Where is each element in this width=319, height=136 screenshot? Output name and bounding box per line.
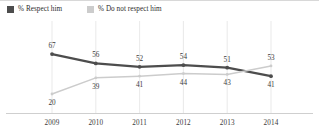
- x-tick-2012: 2012: [176, 119, 191, 127]
- plot-area: 675652545141203941444353: [0, 21, 319, 114]
- line-chart: % Respect him % Do not respect him 67565…: [0, 0, 319, 136]
- data-label-1-2014: 53: [267, 54, 274, 62]
- legend-swatch-do-not-respect: [87, 6, 94, 13]
- x-axis-labels: 200920102011201220132014: [0, 117, 319, 135]
- data-label-1-2011: 41: [136, 81, 143, 89]
- data-point-0-2009[interactable]: [50, 52, 54, 56]
- chart-legend: % Respect him % Do not respect him: [0, 1, 319, 21]
- data-point-0-2014[interactable]: [269, 74, 273, 78]
- data-label-0-2014: 41: [267, 81, 274, 89]
- x-tick-2011: 2011: [132, 119, 147, 127]
- data-point-0-2012[interactable]: [182, 63, 186, 67]
- data-point-1-2013[interactable]: [226, 73, 229, 76]
- data-label-1-2010: 39: [92, 83, 99, 91]
- legend-swatch-respect: [7, 6, 14, 13]
- data-label-0-2011: 52: [136, 55, 143, 63]
- data-point-1-2011[interactable]: [138, 75, 141, 78]
- data-label-1-2012: 44: [180, 79, 187, 87]
- legend-item-do-not-respect[interactable]: % Do not respect him: [87, 5, 162, 14]
- data-point-0-2011[interactable]: [138, 65, 142, 69]
- series-layer: [50, 52, 273, 95]
- data-point-0-2013[interactable]: [225, 66, 229, 70]
- legend-item-respect[interactable]: % Respect him: [7, 5, 62, 14]
- data-label-1-2013: 43: [224, 79, 231, 87]
- x-tick-2013: 2013: [220, 119, 235, 127]
- data-label-0-2010: 56: [92, 51, 99, 59]
- data-label-0-2009: 67: [48, 42, 55, 50]
- data-point-0-2010[interactable]: [94, 62, 98, 66]
- data-label-0-2012: 54: [180, 53, 187, 61]
- gridlines: [52, 21, 271, 114]
- data-point-1-2012[interactable]: [182, 72, 185, 75]
- data-label-1-2009: 20: [48, 99, 55, 107]
- x-tick-2010: 2010: [88, 119, 103, 127]
- data-point-1-2009[interactable]: [51, 93, 54, 96]
- x-tick-2014: 2014: [264, 119, 279, 127]
- x-tick-2009: 2009: [45, 119, 60, 127]
- data-point-1-2014[interactable]: [270, 65, 273, 68]
- legend-label-respect: % Respect him: [18, 5, 62, 14]
- data-point-1-2010[interactable]: [94, 76, 97, 79]
- x-axis-line: [6, 113, 313, 114]
- data-label-0-2013: 51: [224, 56, 231, 64]
- legend-label-do-not-respect: % Do not respect him: [98, 5, 162, 14]
